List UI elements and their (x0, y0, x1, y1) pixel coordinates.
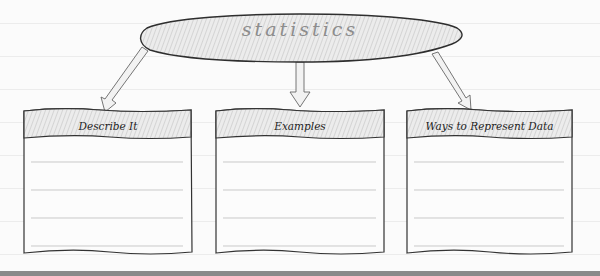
box-title-describe-it: Describe It (24, 113, 192, 140)
arrow-right (432, 52, 471, 110)
box-title-examples: Examples (216, 113, 384, 140)
bottom-strip (0, 271, 600, 276)
arrow-left (101, 47, 148, 112)
arrow-center (290, 62, 310, 107)
box-title-ways-to-represent-data: Ways to Represent Data (407, 113, 572, 140)
center-node-label: statistics (0, 18, 600, 40)
